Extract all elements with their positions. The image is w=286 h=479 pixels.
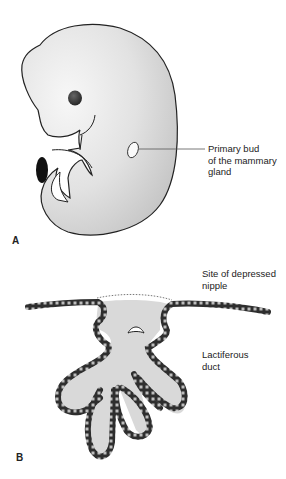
embryo-heart-bulge (36, 157, 48, 183)
embryo-body-outline (22, 24, 178, 235)
panel-letter-a: A (12, 235, 19, 246)
panel-letter-b: B (16, 452, 23, 463)
embryo-eye (68, 91, 82, 106)
label-lactiferous-duct: Lactiferous duct (202, 349, 248, 372)
label-depressed-nipple: Site of depressed nipple (202, 268, 276, 291)
label-primary-bud: Primary bud of the mammary gland (208, 143, 277, 178)
diagram-canvas (0, 0, 286, 479)
panel-b-duct (28, 294, 268, 457)
depressed-nipple-line (97, 294, 172, 300)
panel-a-embryo (22, 24, 205, 235)
